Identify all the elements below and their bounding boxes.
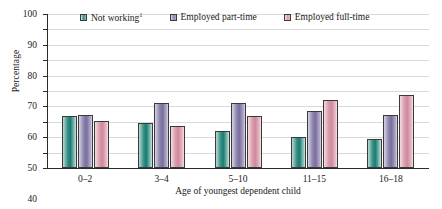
y-axis-title: Percentage [11,31,21,111]
legend-swatch-icon [80,14,87,21]
bar [62,116,77,168]
legend-item[interactable]: Employed full-time [284,12,370,22]
legend-item-label: Not working1 [91,11,143,23]
bar [247,116,262,168]
bar [78,115,93,168]
legend-item-label: Employed full-time [295,12,370,22]
y-axis-tick-label: 90 [28,40,38,50]
bar [170,126,185,168]
bar [215,131,230,168]
x-axis-line [47,168,429,169]
legend-item-label: Employed part-time [181,12,257,22]
legend-swatch-icon [170,14,177,21]
plot-area: 0102030405060708090100 0–23–45–1011–1516… [47,14,429,168]
bar-chart: Percentage 0102030405060708090100 0–23–4… [0,0,442,209]
x-axis-tick-label: 16–18 [379,174,403,184]
legend-item[interactable]: Employed part-time [170,12,257,22]
bar [399,95,414,168]
bar [367,139,382,168]
bar [138,123,153,168]
bar [291,137,306,168]
y-axis-tick-label: 70 [28,101,38,111]
gridline [47,60,429,61]
gridline [47,45,429,46]
x-axis-tick-label: 5–10 [229,174,248,184]
y-axis-line [47,14,48,168]
x-axis-title: Age of youngest dependent child [47,186,429,196]
bar [307,111,322,168]
y-axis-tick-label: 80 [28,71,38,81]
bar [323,100,338,168]
legend-item[interactable]: Not working1 [80,11,143,23]
x-axis-tick-label: 0–2 [78,174,92,184]
y-axis-tick-label: 40 [28,194,38,204]
gridline [47,91,429,92]
x-axis-tick-label: 11–15 [303,174,326,184]
bar [94,121,109,168]
legend-swatch-icon [284,14,291,21]
bar [154,103,169,168]
gridline [47,76,429,77]
x-axis-tick-label: 3–4 [154,174,168,184]
legend-footnote-marker: 1 [139,11,142,18]
y-axis-tick-label: 60 [28,132,38,142]
chart-legend: Not working1Employed part-timeEmployed f… [80,11,369,23]
bar [383,115,398,168]
y-axis-tick-label: 100 [23,9,37,19]
bar [231,103,246,168]
gridline [47,29,429,30]
y-axis-tick-label: 50 [28,163,38,173]
